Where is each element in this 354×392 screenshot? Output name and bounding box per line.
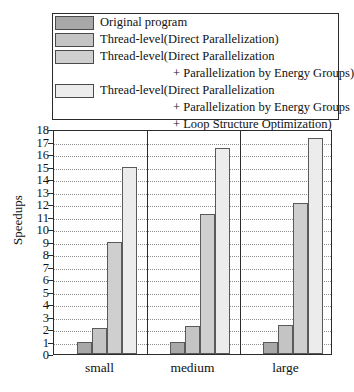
y-axis-tick-label: 15 xyxy=(33,163,49,174)
legend-label-thread-level-loop-optimization: Thread-level(Direct Parallelization xyxy=(100,82,275,99)
gridline xyxy=(54,156,331,157)
x-axis-tick-label: medium xyxy=(153,360,233,376)
plot-area xyxy=(53,130,332,355)
bar xyxy=(278,325,293,354)
y-axis-tick-label: 2 xyxy=(33,325,49,336)
gridline xyxy=(54,206,331,207)
legend-label-thread-level-loop-optimization-line2: + Parallelization by Energy Groups xyxy=(173,99,350,116)
y-axis-tick-label: 3 xyxy=(33,313,49,324)
legend-label-thread-level-direct: Thread-level(Direct Parallelization) xyxy=(100,31,279,48)
legend-label-thread-level-energy-groups-line2: + Parallelization by Energy Groups) xyxy=(173,65,354,82)
x-axis-tick-label: small xyxy=(60,360,140,376)
gridline xyxy=(54,144,331,145)
gridline xyxy=(54,319,331,320)
legend-entry-thread-level-energy-groups: Thread-level(Direct Parallelization xyxy=(53,49,338,66)
gridline xyxy=(54,244,331,245)
legend-label-thread-level-energy-groups: Thread-level(Direct Parallelization xyxy=(100,48,275,65)
y-axis-tick-label: 10 xyxy=(33,225,49,236)
y-axis-tick-label: 17 xyxy=(33,138,49,149)
y-axis-tick-labels: 0123456789101112131415161718 xyxy=(29,130,49,355)
bar xyxy=(185,326,200,354)
legend-swatch-original-program xyxy=(55,16,94,30)
y-axis-tick-mark xyxy=(48,355,53,356)
y-axis-tick-label: 11 xyxy=(33,213,49,224)
bar xyxy=(293,203,308,354)
gridline xyxy=(54,219,331,220)
gridline xyxy=(54,231,331,232)
legend-swatch-thread-level-direct xyxy=(55,33,94,47)
bar xyxy=(215,148,230,354)
bar xyxy=(200,214,215,354)
y-axis-tick-label: 7 xyxy=(33,263,49,274)
legend-entry-thread-level-direct: Thread-level(Direct Parallelization) xyxy=(53,32,338,49)
y-axis-tick-label: 14 xyxy=(33,175,49,186)
bar xyxy=(170,342,185,355)
legend-swatch-thread-level-energy-groups xyxy=(55,50,94,64)
gridline xyxy=(54,306,331,307)
y-axis-tick-label: 12 xyxy=(33,200,49,211)
y-axis-tick-label: 6 xyxy=(33,275,49,286)
group-separator xyxy=(240,131,241,354)
gridline xyxy=(54,269,331,270)
gridline xyxy=(54,256,331,257)
y-axis-tick-label: 9 xyxy=(33,238,49,249)
gridline xyxy=(54,294,331,295)
bar xyxy=(92,328,107,354)
gridline xyxy=(54,169,331,170)
legend-label-original-program: Original program xyxy=(100,14,187,31)
chart-legend: Original program Thread-level(Direct Par… xyxy=(52,13,339,120)
y-axis-tick-label: 16 xyxy=(33,150,49,161)
legend-swatch-thread-level-loop-optimization xyxy=(55,84,94,98)
bar xyxy=(107,242,122,355)
gridline xyxy=(54,281,331,282)
bar xyxy=(122,167,137,355)
y-axis-tick-label: 13 xyxy=(33,188,49,199)
legend-entry-thread-level-loop-optimization: Thread-level(Direct Parallelization xyxy=(53,83,338,100)
y-axis-tick-label: 18 xyxy=(33,125,49,136)
y-axis-tick-label: 4 xyxy=(33,300,49,311)
bar xyxy=(263,342,278,355)
x-axis-tick-label: large xyxy=(246,360,326,376)
y-axis-tick-label: 0 xyxy=(33,350,49,361)
bar xyxy=(308,138,323,354)
gridline xyxy=(54,194,331,195)
y-axis-tick-label: 1 xyxy=(33,338,49,349)
group-separator xyxy=(147,131,148,354)
y-axis-tick-label: 8 xyxy=(33,250,49,261)
y-axis-tick-label: 5 xyxy=(33,288,49,299)
y-axis-label: Speedups xyxy=(10,185,26,255)
legend-entry-original-program: Original program xyxy=(53,15,338,32)
bar xyxy=(77,342,92,355)
gridline xyxy=(54,181,331,182)
